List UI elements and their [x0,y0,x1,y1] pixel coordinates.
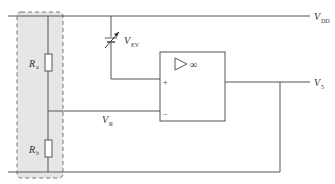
label-vev: V EV [124,35,140,48]
svg-text:b: b [36,150,39,156]
svg-text:R: R [109,121,113,127]
svg-text:DD: DD [321,18,330,24]
svg-text:EV: EV [131,42,140,48]
label-v5: V 5 [314,77,324,90]
svg-text:R: R [28,58,35,69]
opamp-infinity: ∞ [190,59,197,70]
circuit-diagram: ∞ + − V DD V EV V R V 5 R a R b [0,0,335,184]
resistor-rb [45,140,52,157]
label-vdd: V DD [314,11,330,24]
minus-terminal-label: − [163,110,168,119]
plus-terminal-label: + [163,78,168,87]
label-vr: V R [102,114,113,127]
svg-text:R: R [28,144,35,155]
resistor-ra [45,54,52,71]
svg-text:a: a [36,64,39,70]
svg-text:5: 5 [321,84,324,90]
divider-box [17,12,63,178]
